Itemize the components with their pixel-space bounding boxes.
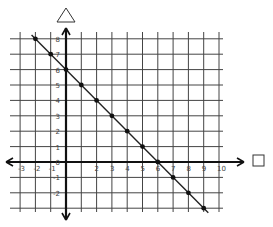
y-axis-label-triangle-icon (57, 8, 75, 22)
y-tick-label: 7 (56, 51, 60, 59)
y-tick-label: 1 (56, 144, 60, 152)
y-tick-label: 6 (56, 67, 61, 75)
x-tick-label: 2 (95, 165, 99, 173)
coordinate-plane: -3-2-12345678910-2-1012345678 (0, 0, 273, 227)
x-axis-label-square-icon (253, 155, 264, 166)
series-line (32, 35, 209, 213)
x-tick-label: 6 (156, 165, 161, 173)
y-tick-label: 5 (56, 82, 60, 90)
data-point (64, 67, 69, 72)
x-tick-label: -3 (18, 165, 25, 173)
data-point (201, 206, 206, 211)
axes (6, 28, 244, 220)
y-tick-label: 0 (56, 159, 60, 167)
data-point (171, 175, 176, 180)
x-tick-label: 8 (186, 165, 190, 173)
x-tick-label: -2 (33, 165, 40, 173)
data-point (140, 144, 145, 149)
data-point (33, 36, 38, 41)
data-point (79, 83, 84, 88)
x-tick-label: 9 (202, 165, 206, 173)
y-tick-label: 3 (56, 113, 60, 121)
grid-lines (10, 32, 223, 212)
data-point (110, 113, 115, 118)
x-tick-label: 10 (217, 165, 226, 173)
data-series (32, 35, 209, 213)
data-point (94, 98, 99, 103)
y-tick-label: -1 (53, 174, 60, 182)
data-point (48, 52, 53, 57)
data-point (186, 190, 191, 195)
y-tick-label: 2 (56, 128, 60, 136)
y-tick-label: -2 (53, 190, 60, 198)
y-tick-label: 4 (56, 97, 61, 105)
x-tick-label: 4 (125, 165, 130, 173)
y-tick-label: 8 (56, 36, 60, 44)
tick-labels: -3-2-12345678910-2-1012345678 (18, 36, 226, 198)
x-tick-label: 7 (171, 165, 175, 173)
data-point (155, 160, 160, 165)
x-tick-label: 5 (141, 165, 145, 173)
data-point (125, 129, 130, 134)
x-tick-label: 3 (110, 165, 114, 173)
